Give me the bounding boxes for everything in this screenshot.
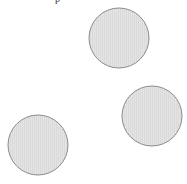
circle-top [89,8,149,68]
circle-right [122,86,182,146]
cropped-text-fragment: p [55,0,60,4]
circle-bottom-left [8,115,68,175]
circles-diagram [0,0,187,184]
diagram-canvas: p [0,0,187,184]
